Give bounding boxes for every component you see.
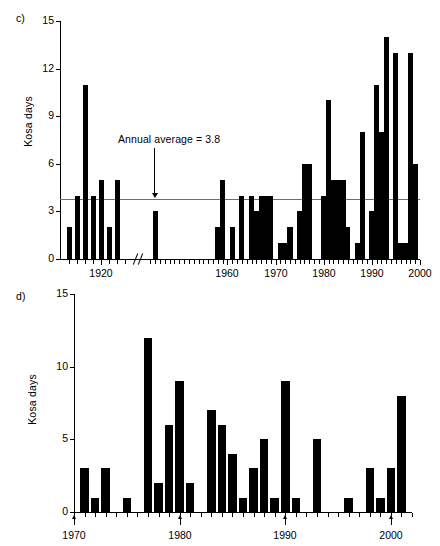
panel-d-x-tick [328,513,329,517]
panel-d-x-tick [116,513,117,517]
panel-c-bar [360,132,365,259]
panel-c-y-tick [56,211,60,212]
panel-c-x-tick [160,260,161,264]
panel-c-x-tick-label: 1970 [252,267,300,279]
panel-c-bar [115,180,120,259]
panel-c-x-tick [406,260,407,264]
panel-d-bar [249,468,258,512]
panel-c-bar [268,196,273,260]
panel-c-x-tick [174,260,175,264]
panel-c-x-tick [386,260,387,264]
panel-c-bar [153,211,158,259]
panel-d-x-tick [317,513,318,517]
panel-c-x-tick [194,260,195,264]
panel-c-x-tick-label: 1960 [203,267,251,279]
panel-c-x-tick [295,260,296,264]
panel-c-bar [413,164,418,259]
panel-d-x-tick [211,513,212,517]
panel-d-bar [387,468,396,512]
panel-c-x-tick [391,260,392,264]
panel-c-x-tick [125,260,126,264]
panel-c-x-tick [304,260,305,264]
panel-d-x-tick [106,513,107,517]
panel-d-plot-area: 0510151970198019902000 [0,282,440,546]
panel-c-bar [230,227,235,259]
panel-c-x-tick [300,260,301,264]
panel-d-x-marker-arrowhead [178,515,182,519]
panel-c-x-tick [333,260,334,264]
panel-d-x-tick [148,513,149,517]
panel-d-bar [175,381,184,512]
panel-d-x-tick [137,513,138,517]
panel-d-x-tick-label: 1970 [50,529,98,541]
panel-c-x-tick [247,260,248,264]
panel-c-y-tick-label: 3 [26,204,54,216]
panel-c-y-tick [56,259,60,260]
panel-d-x-tick [159,513,160,517]
panel-c-x-tick-label: 1980 [300,267,348,279]
panel-d-x-tick [85,513,86,517]
panel-c-x-tick [155,260,156,264]
panel-d-bar [239,498,248,513]
panel-d-y-tick-label: 5 [42,432,68,444]
panel-d-x-tick [169,513,170,517]
panel-d-x-tick [349,513,350,517]
panel-c-x-axis [60,259,420,260]
panel-d-x-tick [306,513,307,517]
panel-c-y-tick-label: 9 [26,109,54,121]
figure-container: c) Kosa days 036912151920196019701980199… [0,0,440,546]
panel-d-bar [344,498,353,513]
panel-c-x-tick [415,260,416,264]
panel-c-y-tick [56,21,60,22]
panel-d-y-axis [74,294,75,513]
panel-c-x-tick-major [372,260,373,265]
panel-c-x-tick [117,260,118,264]
panel-d-x-tick [275,513,276,517]
panel-c-bar [239,196,244,260]
panel-c-y-tick-label: 0 [26,252,54,264]
panel-d-x-tick [190,513,191,517]
panel-d-x-tick [222,513,223,517]
panel-d-bar [101,468,110,512]
panel-c-x-tick [208,260,209,264]
panel-c-x-tick [396,260,397,264]
panel-d-x-marker-arrowhead [389,515,393,519]
panel-c-x-tick [170,260,171,264]
panel-c-x-tick [377,260,378,264]
panel-c-bar [287,227,292,259]
panel-c-x-tick [179,260,180,264]
panel-c-bar [91,196,96,260]
panel-d-bar [366,468,375,512]
panel-d-bar [154,483,163,512]
panel-c-x-tick [165,260,166,264]
panel-c-x-tick-label: 2000 [396,267,440,279]
panel-d-bar [123,498,132,513]
panel-d-bar [397,396,406,512]
panel-c-x-tick [285,260,286,264]
panel-d-x-tick [412,513,413,517]
panel-c-x-tick-major [276,260,277,265]
panel-c-x-tick [218,260,219,264]
panel-c-x-tick [232,260,233,264]
panel-c-x-tick [189,260,190,264]
panel-d-bar [165,425,174,512]
panel-c-x-tick [314,260,315,264]
panel-c-x-tick [410,260,411,264]
panel-c-x-tick [199,260,200,264]
panel-c-bar [75,196,80,260]
panel-c-x-tick [223,260,224,264]
panel-d-bar [292,498,301,513]
panel-c-y-tick [56,164,60,165]
panel-d-y-tick-label: 10 [42,360,68,372]
panel-d-bar [91,498,100,513]
panel-d-y-tick-label: 15 [42,287,68,299]
panel-d-bar [207,410,216,512]
panel-c-plot-area: 03691215192019601970198019902000Annual a… [0,0,440,282]
panel-d-bar [228,454,237,512]
panel-c-y-axis [60,21,61,260]
panel-c-x-tick [252,260,253,264]
panel-d-x-tick [338,513,339,517]
panel-d-x-tick-label: 2000 [367,529,415,541]
panel-c-x-tick-major [420,260,421,265]
panel-d-bar [186,483,195,512]
